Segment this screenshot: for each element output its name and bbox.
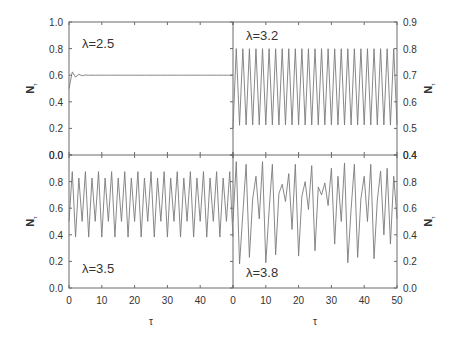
y-tick-label: 0.8 [49,177,63,188]
y-axis-label: Nτ [24,216,38,227]
x-tick-label: 30 [162,295,174,306]
svg-text:Nτ: Nτ [24,216,38,227]
y-tick-label: 0.8 [403,44,417,55]
lambda-annotation: λ=3.5 [82,261,114,276]
chart-canvas: λ=2.50.00.20.40.60.81.0Nτλ=3.20.40.50.60… [0,0,460,343]
x-tick-label: 50 [391,295,403,306]
x-axis-label: τ [149,316,153,327]
y-axis-label: Nτ [24,83,38,94]
y-tick-label: 0.4 [49,230,63,241]
x-tick-label: 10 [96,295,108,306]
x-tick-label: 0 [230,295,236,306]
x-tick-label: 40 [359,295,371,306]
y-tick-label: 0.0 [49,283,63,294]
lambda-annotation: λ=3.2 [246,28,278,43]
series-line-bottom-left [69,172,233,237]
y-tick-label: 0.2 [403,256,417,267]
y-tick-label: 0.0 [49,150,63,161]
y-axis-label: Nτ [422,83,436,94]
y-tick-label: 0.0 [403,283,417,294]
x-tick-label: 20 [293,295,305,306]
series-line-top-right [233,49,397,129]
y-tick-label: 0.5 [403,123,417,134]
y-tick-label: 0.2 [49,256,63,267]
x-axis-label: τ [313,316,317,327]
x-tick-label: 20 [129,295,141,306]
y-tick-label: 0.9 [403,17,417,28]
y-tick-label: 1.0 [49,17,63,28]
lambda-annotation: λ=2.5 [82,36,114,51]
svg-text:Nτ: Nτ [422,216,436,227]
y-tick-label: 0.4 [403,230,417,241]
x-tick-label: 10 [260,295,272,306]
y-tick-label: 0.4 [49,97,63,108]
y-axis-label: Nτ [422,216,436,227]
x-tick-label: 30 [326,295,338,306]
svg-text:Nτ: Nτ [24,83,38,94]
y-tick-label: 0.4 [403,150,417,161]
y-tick-label: 0.6 [403,97,417,108]
y-tick-label: 0.7 [403,70,417,81]
series-line-top-left [69,72,233,89]
y-tick-label: 0.8 [49,44,63,55]
y-tick-label: 0.2 [49,123,63,134]
x-tick-label: 0 [66,295,72,306]
y-tick-label: 0.6 [403,203,417,214]
series-line-bottom-right [233,162,397,264]
y-tick-label: 0.8 [403,177,417,188]
y-tick-label: 0.6 [49,70,63,81]
figure: λ=2.50.00.20.40.60.81.0Nτλ=3.20.40.50.60… [0,0,460,343]
svg-text:Nτ: Nτ [422,83,436,94]
lambda-annotation: λ=3.8 [246,265,278,280]
y-tick-label: 0.6 [49,203,63,214]
x-tick-label: 40 [195,295,207,306]
